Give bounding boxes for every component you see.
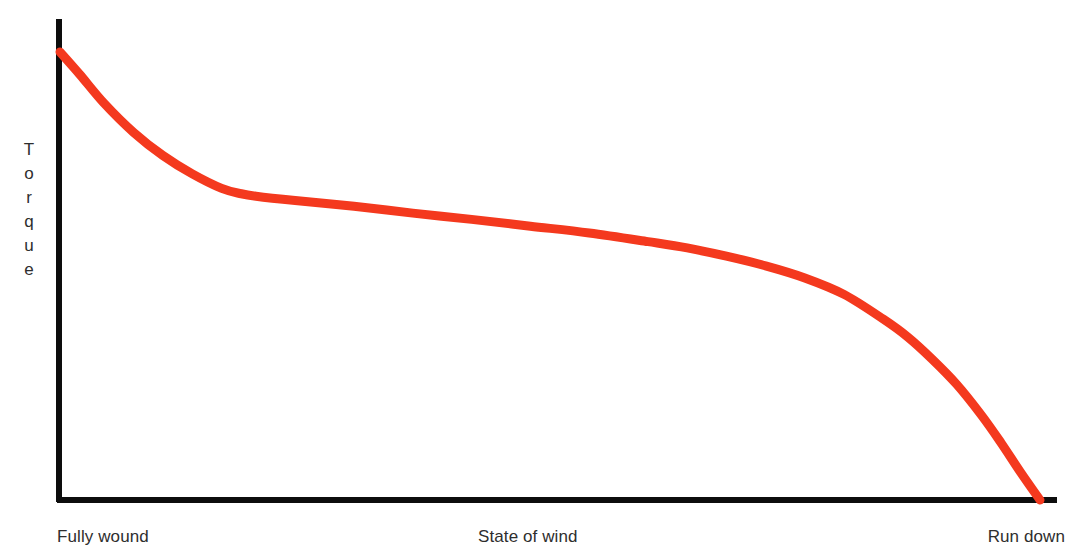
torque-curve-line: [60, 52, 1040, 500]
y-axis-title-letter-4: u: [24, 234, 33, 258]
y-axis-title-letter-1: o: [24, 162, 33, 186]
torque-curve-plot: [0, 0, 1076, 555]
x-axis-label-fully-wound: Fully wound: [57, 527, 149, 547]
y-axis-title-letter-3: q: [24, 210, 33, 234]
chart-figure: Torque Fully wound State of wind Run dow…: [0, 0, 1076, 555]
x-axis-label-run-down: Run down: [955, 527, 1065, 547]
y-axis-title-letter-2: r: [26, 186, 32, 210]
y-axis-title: Torque: [13, 138, 45, 282]
x-axis-label-state-of-wind: State of wind: [478, 527, 578, 547]
y-axis-title-letter-0: T: [24, 138, 34, 162]
y-axis-title-letter-5: e: [24, 258, 33, 282]
